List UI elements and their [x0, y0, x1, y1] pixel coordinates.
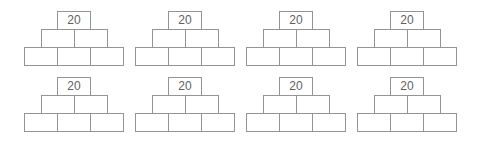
- pyramid-bottom-cell-right: [201, 47, 235, 66]
- pyramid-bottom-cell-center: [279, 47, 313, 66]
- pyramid-top-cell: 20: [57, 11, 91, 30]
- pyramid-bottom-row: [135, 113, 235, 132]
- pyramid-bottom-row: [357, 113, 457, 132]
- pyramid-middle-cell-left: [374, 29, 408, 48]
- pyramid-bottom-row: [246, 47, 346, 66]
- pyramid-bottom-cell-center: [390, 47, 424, 66]
- pyramid-middle-row: [374, 95, 441, 114]
- pyramid-middle-cell-right: [296, 29, 330, 48]
- pyramid-middle-cell-left: [263, 29, 297, 48]
- number-pyramid-2: 20: [135, 11, 235, 66]
- pyramid-bottom-cell-center: [168, 113, 202, 132]
- pyramid-top-row: 20: [390, 11, 424, 30]
- pyramid-bottom-row: [24, 113, 124, 132]
- pyramid-bottom-cell-left: [135, 113, 169, 132]
- pyramid-bottom-cell-right: [90, 113, 124, 132]
- pyramid-bottom-row: [24, 47, 124, 66]
- pyramid-middle-cell-left: [152, 95, 186, 114]
- pyramid-middle-cell-left: [263, 95, 297, 114]
- number-pyramid-7: 20: [246, 77, 346, 132]
- pyramid-bottom-cell-center: [390, 113, 424, 132]
- pyramid-middle-row: [152, 29, 219, 48]
- worksheet-pyramids-sheet: 20 20: [0, 0, 481, 141]
- pyramid-bottom-cell-right: [312, 113, 346, 132]
- pyramid-top-row: 20: [168, 77, 202, 96]
- pyramid-bottom-cell-left: [246, 113, 280, 132]
- pyramid-bottom-cell-center: [57, 47, 91, 66]
- pyramid-bottom-row: [135, 47, 235, 66]
- number-pyramid-8: 20: [357, 77, 457, 132]
- pyramid-bottom-cell-left: [357, 113, 391, 132]
- pyramid-middle-cell-right: [407, 95, 441, 114]
- pyramid-top-cell: 20: [279, 77, 313, 96]
- pyramid-top-cell: 20: [390, 11, 424, 30]
- pyramid-bottom-cell-left: [24, 113, 58, 132]
- pyramid-bottom-row: [246, 113, 346, 132]
- pyramid-top-row: 20: [279, 77, 313, 96]
- pyramid-top-row: 20: [390, 77, 424, 96]
- pyramid-middle-cell-left: [152, 29, 186, 48]
- pyramid-middle-row: [374, 29, 441, 48]
- pyramid-bottom-cell-right: [423, 113, 457, 132]
- number-pyramid-3: 20: [246, 11, 346, 66]
- pyramid-bottom-cell-left: [357, 47, 391, 66]
- pyramid-middle-cell-right: [74, 29, 108, 48]
- pyramid-bottom-cell-left: [135, 47, 169, 66]
- pyramid-top-cell: 20: [57, 77, 91, 96]
- pyramid-middle-cell-right: [296, 95, 330, 114]
- pyramid-middle-row: [41, 95, 108, 114]
- pyramid-middle-cell-left: [41, 29, 75, 48]
- number-pyramid-6: 20: [135, 77, 235, 132]
- number-pyramid-1: 20: [24, 11, 124, 66]
- pyramid-bottom-cell-right: [312, 47, 346, 66]
- pyramid-bottom-cell-right: [201, 113, 235, 132]
- pyramid-middle-row: [152, 95, 219, 114]
- pyramid-middle-cell-right: [407, 29, 441, 48]
- pyramid-bottom-cell-left: [246, 47, 280, 66]
- pyramid-middle-row: [263, 95, 330, 114]
- pyramid-bottom-cell-right: [90, 47, 124, 66]
- number-pyramid-5: 20: [24, 77, 124, 132]
- pyramid-bottom-row: [357, 47, 457, 66]
- pyramid-middle-row: [41, 29, 108, 48]
- pyramid-grid-row-2: 20 20: [24, 77, 481, 132]
- pyramid-top-cell: 20: [279, 11, 313, 30]
- pyramid-middle-cell-left: [41, 95, 75, 114]
- pyramid-middle-row: [263, 29, 330, 48]
- pyramid-top-row: 20: [57, 77, 91, 96]
- pyramid-top-row: 20: [168, 11, 202, 30]
- pyramid-bottom-cell-center: [57, 113, 91, 132]
- pyramid-middle-cell-right: [74, 95, 108, 114]
- pyramid-middle-cell-right: [185, 29, 219, 48]
- pyramid-bottom-cell-right: [423, 47, 457, 66]
- pyramid-top-row: 20: [279, 11, 313, 30]
- pyramid-middle-cell-left: [374, 95, 408, 114]
- pyramid-middle-cell-right: [185, 95, 219, 114]
- pyramid-top-cell: 20: [168, 77, 202, 96]
- pyramid-top-cell: 20: [168, 11, 202, 30]
- pyramid-bottom-cell-center: [279, 113, 313, 132]
- pyramid-top-row: 20: [57, 11, 91, 30]
- pyramid-bottom-cell-left: [24, 47, 58, 66]
- number-pyramid-4: 20: [357, 11, 457, 66]
- pyramid-top-cell: 20: [390, 77, 424, 96]
- pyramid-grid-row-1: 20 20: [24, 11, 481, 66]
- pyramid-bottom-cell-center: [168, 47, 202, 66]
